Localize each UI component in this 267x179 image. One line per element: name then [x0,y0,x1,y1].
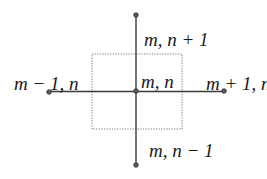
node-south [134,163,139,168]
label-west: m − 1, n [14,74,79,93]
label-north: m, n + 1 [144,30,209,49]
node-north [134,13,139,18]
label-center: m, n [141,72,174,91]
label-south: m, n − 1 [149,141,214,160]
label-east: m + 1, n [206,74,267,93]
node-center [134,89,139,94]
